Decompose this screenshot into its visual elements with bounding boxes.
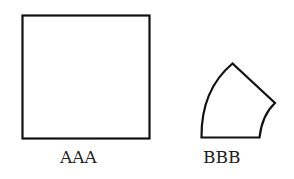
curved-wedge-shape bbox=[201, 64, 275, 138]
square-label: AAA bbox=[60, 149, 97, 166]
curved-wedge-label: BBB bbox=[203, 149, 240, 166]
square-shape bbox=[23, 16, 150, 139]
shapes-svg bbox=[0, 0, 294, 179]
diagram-canvas: AAA BBB bbox=[0, 0, 294, 179]
